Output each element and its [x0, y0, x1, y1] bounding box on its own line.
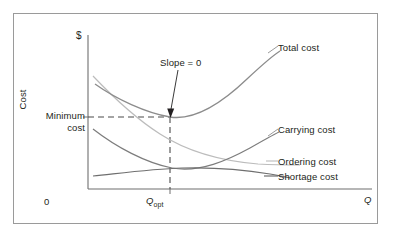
series-label-ordering-cost: Ordering cost: [278, 156, 336, 167]
y-axis-title: Cost: [17, 76, 28, 124]
qopt-subscript: opt: [154, 201, 164, 208]
minimum-cost-line1: Minimum: [29, 110, 85, 122]
x-tick-label-qopt: Qopt: [146, 195, 164, 210]
series-label-shortage-cost: Shortage cost: [278, 171, 338, 182]
y-axis-unit-label: $: [76, 30, 82, 41]
x-axis-title: Q: [364, 194, 372, 205]
minimum-cost-line2: cost: [29, 122, 85, 134]
origin-label: 0: [44, 196, 49, 207]
slope-annotation-leader: [171, 70, 179, 112]
qopt-symbol: Q: [146, 195, 154, 206]
inventory-cost-diagram: $ Cost Minimum cost 0 Qopt Q Slope = 0 T…: [0, 0, 394, 237]
y-tick-label-minimum-cost: Minimum cost: [29, 110, 85, 133]
series-label-total-cost: Total cost: [278, 42, 319, 53]
curve-ordering-cost: [93, 76, 300, 165]
series-label-carrying-cost: Carrying cost: [278, 124, 335, 135]
total-cost-leader: [268, 46, 278, 53]
slope-annotation-label: Slope = 0: [160, 57, 201, 68]
